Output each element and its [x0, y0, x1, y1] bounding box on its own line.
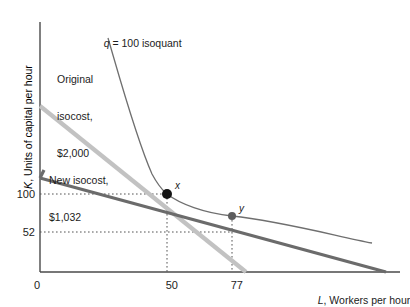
- new-isocost-annotation: New isocost, $1,032: [49, 149, 109, 248]
- isoquant-annotation: q = 100 isoquant: [92, 25, 182, 62]
- x-axis-title: L, Workers per hour: [306, 282, 410, 307]
- x-tick-label-77: 77: [221, 279, 243, 292]
- x-tick-label-50: 50: [156, 279, 178, 292]
- y-axis-title-text: , Units of capital per hour: [22, 65, 34, 182]
- point-y-label: y: [239, 203, 244, 215]
- point-y-marker: [228, 212, 236, 220]
- x-tick-label-0: 0: [18, 279, 40, 292]
- isoquant-isocost-chart: K, Units of capital per hour L, Workers …: [0, 0, 410, 307]
- point-x-marker: [162, 189, 172, 199]
- x-axis-title-text: , Workers per hour: [324, 294, 410, 306]
- y-tick-label-100: 100: [5, 188, 35, 201]
- point-x-label: x: [175, 180, 180, 192]
- y-tick-label-52: 52: [5, 226, 35, 239]
- isoquant-annotation-text: = 100 isoquant: [110, 37, 182, 49]
- new-isocost-line-1: New isocost,: [49, 174, 109, 186]
- original-isocost-line-1: Original: [57, 73, 93, 85]
- original-isocost-line-2: isocost,: [57, 110, 93, 122]
- new-isocost-line-2: $1,032: [49, 211, 109, 223]
